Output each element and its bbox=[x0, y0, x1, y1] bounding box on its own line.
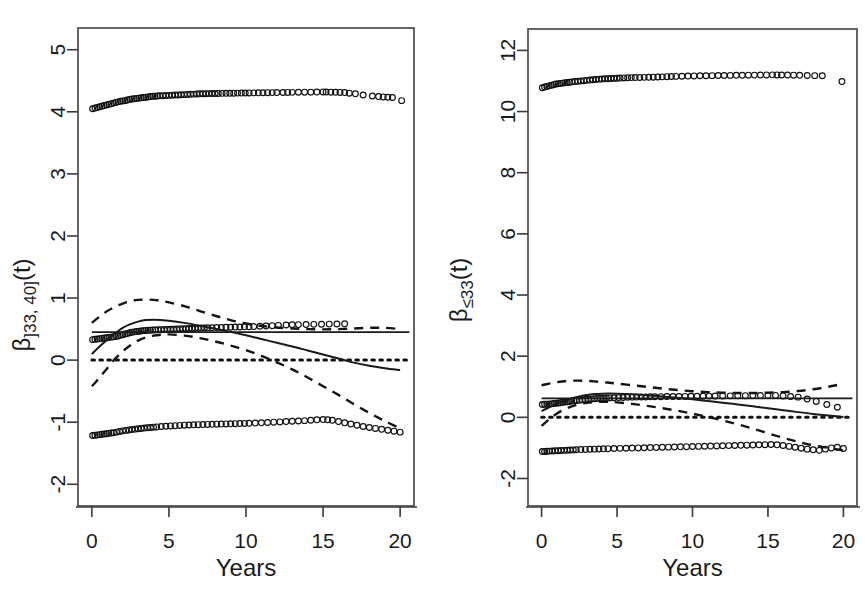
x-tick-label: 15 bbox=[756, 529, 779, 552]
data-point bbox=[653, 445, 659, 451]
data-point bbox=[813, 399, 819, 405]
ylabel-tail-right: (t) bbox=[445, 258, 472, 281]
data-point bbox=[745, 72, 751, 78]
data-point bbox=[678, 444, 684, 450]
y-tick-label: 5 bbox=[47, 44, 70, 56]
ylabel-sub-right: ≤33 bbox=[458, 280, 477, 308]
plot-area-left bbox=[90, 89, 410, 438]
data-point bbox=[751, 72, 757, 78]
data-point bbox=[727, 72, 733, 78]
data-point bbox=[360, 92, 366, 98]
data-point bbox=[659, 444, 665, 450]
data-point bbox=[369, 93, 375, 99]
data-point bbox=[785, 72, 791, 78]
x-tick-label: 5 bbox=[611, 529, 623, 552]
x-axis-title-right: Years bbox=[662, 554, 723, 581]
y-tick-label: 0 bbox=[497, 411, 520, 423]
data-point bbox=[303, 322, 309, 328]
data-point bbox=[283, 322, 289, 328]
svg-text:β≤33(t): β≤33(t) bbox=[445, 258, 477, 323]
data-point bbox=[283, 419, 289, 425]
data-point bbox=[360, 424, 366, 430]
data-point bbox=[665, 444, 671, 450]
data-point bbox=[379, 426, 385, 432]
ylabel-beta-left: β bbox=[8, 338, 35, 352]
plot-frame-right bbox=[528, 29, 857, 506]
data-point bbox=[629, 445, 635, 451]
data-point bbox=[265, 420, 271, 426]
data-point bbox=[342, 321, 348, 327]
data-point bbox=[308, 89, 314, 95]
data-point bbox=[738, 442, 744, 448]
data-point bbox=[641, 445, 647, 451]
x-tick-label: 20 bbox=[388, 529, 411, 552]
data-point bbox=[691, 73, 697, 79]
data-point bbox=[703, 73, 709, 79]
data-point bbox=[708, 443, 714, 449]
y-tick-label: 10 bbox=[497, 100, 520, 123]
series-lower-band-points bbox=[90, 417, 403, 439]
data-point bbox=[690, 444, 696, 450]
series-lower-confidence-band bbox=[92, 334, 400, 428]
data-point bbox=[671, 444, 677, 450]
data-point bbox=[302, 418, 308, 424]
x-tick-label: 10 bbox=[681, 529, 704, 552]
y-tick-label: -1 bbox=[47, 413, 70, 432]
series-upper-confidence-band bbox=[542, 381, 844, 393]
data-point bbox=[810, 447, 816, 453]
data-point bbox=[296, 322, 302, 328]
y-tick-label: -2 bbox=[497, 469, 520, 488]
axis-ticks-right: -202468101205101520 bbox=[497, 39, 861, 552]
data-point bbox=[399, 98, 405, 104]
data-point bbox=[804, 73, 810, 79]
data-point bbox=[319, 321, 325, 327]
data-point bbox=[798, 445, 804, 451]
data-point bbox=[702, 443, 708, 449]
data-point bbox=[617, 445, 623, 451]
data-point bbox=[715, 73, 721, 79]
data-point bbox=[685, 73, 691, 79]
data-point bbox=[311, 321, 317, 327]
data-point bbox=[342, 420, 348, 426]
data-point bbox=[611, 446, 617, 452]
data-point bbox=[397, 429, 403, 435]
data-point bbox=[732, 443, 738, 449]
y-tick-label: 4 bbox=[497, 289, 520, 301]
data-point bbox=[684, 444, 690, 450]
data-point bbox=[756, 442, 762, 448]
data-point bbox=[296, 418, 302, 424]
x-tick-label: 0 bbox=[86, 529, 98, 552]
x-axis-title-left: Years bbox=[216, 554, 277, 581]
data-point bbox=[314, 89, 320, 95]
x-tick-label: 5 bbox=[163, 529, 175, 552]
data-point bbox=[819, 73, 825, 79]
data-point bbox=[739, 72, 745, 78]
y-tick-label: 2 bbox=[497, 350, 520, 362]
series-upper-band-points bbox=[90, 89, 405, 112]
y-axis-title-left: β]33, 40](t) bbox=[8, 258, 40, 351]
data-point bbox=[744, 442, 750, 448]
data-point bbox=[816, 447, 822, 453]
y-tick-label: 4 bbox=[47, 106, 70, 118]
data-point bbox=[762, 442, 768, 448]
data-point bbox=[391, 428, 397, 434]
plot-frame-left bbox=[78, 28, 414, 506]
data-point bbox=[780, 443, 786, 449]
data-point bbox=[726, 443, 732, 449]
data-point bbox=[714, 443, 720, 449]
data-point bbox=[252, 420, 258, 426]
y-tick-label: 3 bbox=[47, 168, 70, 180]
chart-svg-right: β≤33(t) -202468101205101520 Years bbox=[435, 0, 865, 589]
data-point bbox=[366, 425, 372, 431]
data-point bbox=[326, 321, 332, 327]
chart-svg-left: β]33, 40](t) -2-101234505101520 Years bbox=[0, 0, 435, 589]
data-point bbox=[308, 417, 314, 423]
data-point bbox=[733, 72, 739, 78]
ylabel-beta-right: β bbox=[445, 309, 472, 323]
data-point bbox=[786, 443, 792, 449]
ylabel-tail-left: (t) bbox=[8, 258, 35, 281]
data-point bbox=[334, 321, 340, 327]
series-lower-band-points bbox=[539, 442, 846, 455]
data-point bbox=[721, 73, 727, 79]
data-point bbox=[696, 443, 702, 449]
